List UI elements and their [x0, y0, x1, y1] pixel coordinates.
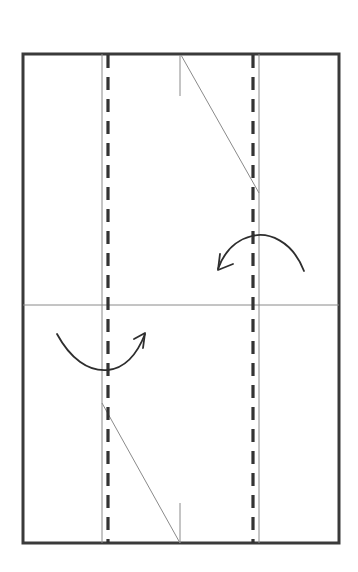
paper-sheet — [23, 54, 339, 543]
origami-diagram — [0, 0, 358, 572]
